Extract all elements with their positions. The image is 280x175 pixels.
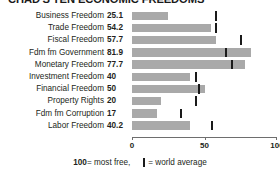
bar-fill <box>132 97 161 106</box>
world-average-marker <box>225 48 227 58</box>
world-average-marker <box>195 96 197 106</box>
row-label: Fdm fm Corruption <box>0 109 104 118</box>
legend-world-average-label: = world average <box>148 158 206 167</box>
bar-track <box>132 85 277 94</box>
row-value: 40 <box>107 72 116 81</box>
row-value: 20 <box>107 96 116 105</box>
row-value: 81.9 <box>107 48 123 57</box>
world-average-marker <box>215 23 217 33</box>
bar-fill <box>132 73 190 82</box>
row-label: Financial Freedom <box>0 84 104 93</box>
row-value: 17 <box>107 109 116 118</box>
world-average-marker <box>211 121 213 131</box>
legend-most-free-label: = most free, <box>87 158 130 167</box>
row-label: Monetary Freedom <box>0 60 104 69</box>
chart-row: Fdm fm Corruption17 <box>0 109 280 121</box>
chart-row: Investment Freedom40 <box>0 72 280 84</box>
axis-tick-label: 100 <box>270 141 280 150</box>
chart-row: Business Freedom25.1 <box>0 11 280 23</box>
row-value: 77.7 <box>107 60 123 69</box>
world-average-marker <box>231 60 233 70</box>
chart-row: Fiscal Freedom57.7 <box>0 35 280 47</box>
bar-track <box>132 12 277 21</box>
chart-plot-area: Business Freedom25.1Trade Freedom54.2Fis… <box>0 11 280 135</box>
world-average-marker-icon <box>143 158 145 167</box>
bar-fill <box>132 60 245 69</box>
row-value: 40.2 <box>107 121 123 130</box>
chart-row: Property Rights20 <box>0 96 280 108</box>
row-label: Fiscal Freedom <box>0 35 104 44</box>
world-average-marker <box>240 35 242 45</box>
bar-fill <box>132 12 168 21</box>
chart-row: Financial Freedom50 <box>0 84 280 96</box>
legend-most-free-value: 100 <box>73 158 87 167</box>
world-average-marker <box>198 84 200 94</box>
row-value: 57.7 <box>107 35 123 44</box>
bar-track <box>132 73 277 82</box>
axis-tick <box>205 137 206 140</box>
row-value: 50 <box>107 84 116 93</box>
bar-fill <box>132 24 211 33</box>
row-label: Fdm fm Government <box>0 48 104 57</box>
world-average-marker <box>180 109 182 119</box>
chart-title: CHAD'S TEN ECONOMIC FREEDOMS <box>8 0 204 5</box>
bar-track <box>132 48 277 57</box>
row-label: Trade Freedom <box>0 23 104 32</box>
bar-track <box>132 109 277 118</box>
bar-track <box>132 121 277 130</box>
chart-row: Trade Freedom54.2 <box>0 23 280 35</box>
bar-fill <box>132 121 190 130</box>
row-label: Labor Freedom <box>0 121 104 130</box>
bar-fill <box>132 36 216 45</box>
row-label: Business Freedom <box>0 11 104 20</box>
chart-legend: 100 = most free, = world average <box>0 158 280 167</box>
chart-row: Labor Freedom40.2 <box>0 121 280 133</box>
bar-fill <box>132 109 157 118</box>
row-label: Property Rights <box>0 96 104 105</box>
bar-track <box>132 60 277 69</box>
row-label: Investment Freedom <box>0 72 104 81</box>
bar-track <box>132 36 277 45</box>
bar-track <box>132 97 277 106</box>
row-value: 54.2 <box>107 23 123 32</box>
world-average-marker <box>215 11 217 21</box>
bar-fill <box>132 85 205 94</box>
row-value: 25.1 <box>107 11 123 20</box>
bar-fill <box>132 48 251 57</box>
bar-track <box>132 24 277 33</box>
axis-tick-label: 50 <box>200 141 209 150</box>
x-axis: 050100 <box>132 137 277 153</box>
axis-tick <box>276 137 277 140</box>
chart-row: Fdm fm Government81.9 <box>0 48 280 60</box>
axis-tick-label: 0 <box>130 141 134 150</box>
axis-tick <box>132 137 133 140</box>
world-average-marker <box>195 72 197 82</box>
chart-row: Monetary Freedom77.7 <box>0 60 280 72</box>
